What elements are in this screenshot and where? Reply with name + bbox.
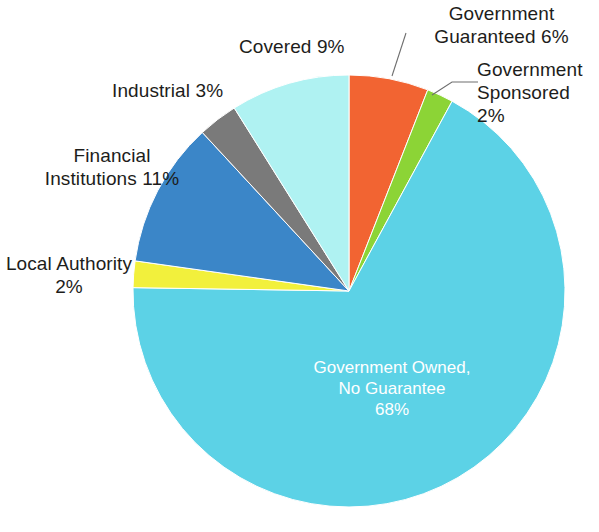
slice-label-local-authority: Local Authority 2% xyxy=(0,252,138,298)
slice-label-government-sponsored: Government Sponsored 2% xyxy=(477,58,599,127)
pie-slice-group xyxy=(133,75,565,507)
slice-label-financial-institutions: Financial Institutions 11% xyxy=(31,144,193,190)
slice-label-industrial: Industrial 3% xyxy=(112,79,262,102)
leader-line-government-guaranteed xyxy=(392,33,406,76)
slice-label-covered: Covered 9% xyxy=(239,35,379,58)
leader-line-government-sponsored xyxy=(432,82,478,95)
pie-chart: Government Guaranteed 6% Government Spon… xyxy=(0,0,599,532)
slice-label-government-guaranteed: Government Guaranteed 6% xyxy=(414,2,589,48)
slice-label-government-owned: Government Owned, No Guarantee 68% xyxy=(292,357,492,420)
